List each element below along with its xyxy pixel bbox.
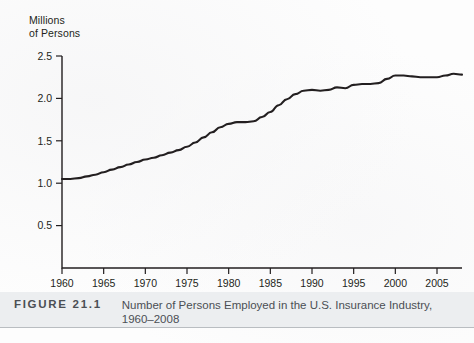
figure-caption: FIGURE 21.1 Number of Persons Employed i… <box>0 293 474 327</box>
chart-figure: Millions of Persons 0.51.01.52.02.5 1960… <box>0 0 474 290</box>
y-tick-label: 0.5 <box>37 219 52 231</box>
data-series-line <box>62 74 462 179</box>
x-tick-label: 1995 <box>342 277 366 289</box>
x-tick-label: 1960 <box>50 277 74 289</box>
x-tick-label: 1980 <box>217 277 241 289</box>
page-background: Millions of Persons 0.51.01.52.02.5 1960… <box>0 0 474 343</box>
y-axis-ticks: 0.51.01.52.02.5 <box>37 50 62 232</box>
x-axis-ticks: 1960196519701975198019851990199520002005 <box>50 268 449 289</box>
x-tick-label: 1990 <box>300 277 324 289</box>
y-tick-label: 1.5 <box>37 135 52 147</box>
x-tick-label: 1970 <box>134 277 158 289</box>
x-tick-label: 1975 <box>175 277 199 289</box>
caption-rule-bottom <box>0 327 474 328</box>
y-tick-label: 2.5 <box>37 50 52 62</box>
figure-number: FIGURE 21.1 <box>14 298 102 310</box>
line-chart-plot: 0.51.01.52.02.5 196019651970197519801985… <box>0 0 474 290</box>
x-tick-label: 2005 <box>425 277 449 289</box>
y-tick-label: 1.0 <box>37 177 52 189</box>
x-tick-label: 1985 <box>259 277 283 289</box>
x-tick-label: 2000 <box>384 277 408 289</box>
figure-caption-text: Number of Persons Employed in the U.S. I… <box>122 298 472 326</box>
y-tick-label: 2.0 <box>37 92 52 104</box>
x-tick-label: 1965 <box>92 277 116 289</box>
axis-lines <box>62 56 462 268</box>
